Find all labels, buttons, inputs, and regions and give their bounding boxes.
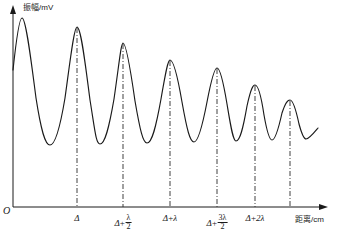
tick-int-delta-lambda: λ	[173, 213, 177, 223]
fraction-lambda-over-2: λ2	[125, 214, 131, 231]
x-tick-label-delta: Δ	[74, 214, 79, 223]
fraction-denominator: 2	[125, 222, 131, 231]
x-tick-label-delta-lambda: Δ+λ	[163, 214, 177, 223]
origin-label: O	[3, 206, 10, 216]
y-axis	[10, 5, 16, 207]
fraction-denominator: 2	[217, 222, 227, 231]
fraction-3lambda-over-2: 3λ2	[217, 214, 227, 231]
tick-int-delta-2lambda: 2λ	[256, 213, 264, 223]
amplitude-curve	[13, 18, 318, 145]
amplitude-distance-chart: 振幅/mV 距离/cm O Δ Δ+λ2 Δ+λ Δ+3λ2 Δ+2λ	[0, 0, 337, 243]
tick-plus-delta-half: +	[120, 218, 125, 228]
fraction-numerator: 3λ	[217, 214, 227, 222]
y-axis-label: 振幅/mV	[23, 4, 53, 12]
peak-marker-lines	[77, 28, 290, 207]
x-tick-label-delta-3half: Δ+3λ2	[207, 214, 228, 231]
tick-plus-delta-3half: +	[212, 218, 217, 228]
chart-svg	[0, 0, 337, 243]
x-tick-label-delta-half: Δ+λ2	[115, 214, 132, 231]
x-axis-label: 距离/cm	[295, 216, 324, 224]
x-tick-label-delta-2lambda: Δ+2λ	[246, 214, 265, 223]
x-axis	[13, 204, 328, 210]
tick-base-delta: Δ	[74, 213, 79, 223]
fraction-numerator: λ	[125, 214, 131, 222]
